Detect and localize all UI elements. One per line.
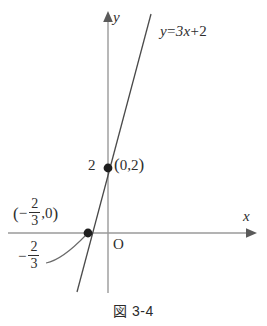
- y-axis-arrowhead: [103, 11, 113, 22]
- origin-label: O: [113, 237, 124, 252]
- minus-sign: −: [19, 206, 27, 221]
- y-axis-tick-label-2: 2: [88, 158, 96, 173]
- equation-slope-term: 3x: [176, 23, 191, 39]
- equation-plus: +: [191, 23, 200, 39]
- equation-equals: =: [167, 23, 176, 39]
- x-axis-label: x: [243, 209, 250, 224]
- leader-curve-to-x-intercept: [46, 235, 86, 263]
- y-axis-label: y: [113, 10, 120, 25]
- paren-close: ): [138, 155, 144, 174]
- point-y-intercept: [104, 164, 113, 173]
- fraction-two-thirds: 2 3: [29, 197, 40, 229]
- x-intercept-value-label: − 2 3: [18, 241, 40, 273]
- equation-label: y=3x+2: [160, 24, 207, 39]
- x-axis-arrowhead: [246, 228, 257, 238]
- figure-caption: 図 3-4: [0, 300, 267, 320]
- y-intercept-coordinate-label: (0,2): [114, 156, 144, 173]
- fraction-numerator: 2: [28, 240, 39, 254]
- minus-sign: −: [18, 249, 26, 264]
- fraction-two-thirds: 2 3: [28, 240, 39, 272]
- figure-container: y x y=3x+2 2 (0,2) (− 2 3 ,0) − 2 3: [0, 0, 267, 326]
- fraction-denominator: 3: [28, 257, 39, 271]
- paren-close: ): [52, 205, 58, 222]
- fraction-denominator: 3: [29, 214, 40, 228]
- equation-intercept-term: 2: [199, 23, 207, 39]
- x-intercept-coordinate-label: (− 2 3 ,0): [13, 198, 58, 230]
- fraction-numerator: 2: [29, 197, 40, 211]
- equation-y: y: [160, 23, 167, 39]
- coord-y-value: 0: [45, 206, 53, 221]
- point-x-intercept: [84, 229, 93, 238]
